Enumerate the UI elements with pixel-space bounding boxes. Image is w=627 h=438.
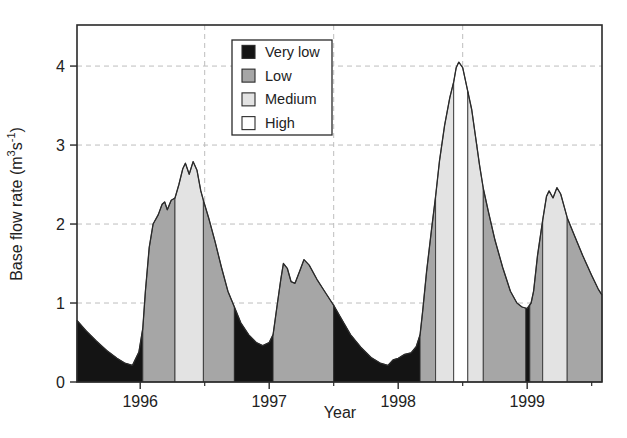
legend-label: Very low <box>265 44 320 60</box>
legend-swatch-medium <box>242 93 255 106</box>
legend-label: Medium <box>265 91 317 107</box>
y-axis-title: Base flow rate (m3s-1) <box>5 127 25 281</box>
legend-swatch-low <box>242 69 255 82</box>
band-medium <box>543 188 568 382</box>
legend-swatch-high <box>242 117 255 130</box>
band-high <box>454 62 468 382</box>
band-low <box>143 198 175 382</box>
x-tick-label: 1998 <box>380 393 416 410</box>
y-tick-label: 3 <box>56 137 65 154</box>
legend-label: High <box>265 115 295 131</box>
flow-category-bands <box>77 62 602 382</box>
band-very-low <box>77 320 143 382</box>
x-tick-label: 1996 <box>122 393 158 410</box>
x-tick-label: 1999 <box>509 393 545 410</box>
band-low <box>567 218 602 382</box>
band-medium <box>175 162 203 382</box>
y-tick-label: 2 <box>56 216 65 233</box>
legend-label: Low <box>265 68 292 84</box>
x-axis-title: Year <box>324 404 357 421</box>
band-very-low <box>234 307 273 382</box>
base-flow-chart: 1996199719981999 01234 Year Base flow ra… <box>0 0 627 438</box>
y-tick-label: 1 <box>56 295 65 312</box>
band-low <box>273 260 334 382</box>
legend: Very lowLowMediumHigh <box>232 40 332 135</box>
x-tick-label: 1997 <box>251 393 287 410</box>
y-tick-labels: 01234 <box>56 58 65 391</box>
band-very-low <box>334 305 420 382</box>
band-low <box>203 200 234 382</box>
legend-swatch-very-low <box>242 45 255 58</box>
band-very-low <box>526 305 530 382</box>
y-tick-label: 4 <box>56 58 65 75</box>
chart-svg: 1996199719981999 01234 Year Base flow ra… <box>0 0 627 438</box>
y-tick-label: 0 <box>56 374 65 391</box>
